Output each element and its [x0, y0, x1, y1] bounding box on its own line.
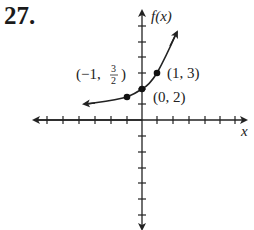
- graph: x f(x) (−1, 3 2 ) (0: [0, 0, 254, 230]
- svg-text:): ): [121, 66, 126, 83]
- label-point-0-2: (0, 2): [153, 89, 186, 106]
- point-0-2: [139, 86, 146, 93]
- x-axis-label: x: [240, 123, 248, 139]
- y-axis-label: f(x): [151, 8, 172, 25]
- svg-text:3: 3: [111, 63, 116, 74]
- svg-text:(−1,: (−1,: [76, 66, 101, 83]
- y-axis: f(x): [138, 8, 172, 229]
- label-point-neg1: (−1, 3 2 ): [76, 63, 126, 86]
- svg-text:2: 2: [111, 75, 116, 86]
- label-point-1-3: (1, 3): [167, 65, 200, 82]
- point-1-3: [154, 70, 161, 77]
- point-neg1-3halves: [124, 94, 131, 101]
